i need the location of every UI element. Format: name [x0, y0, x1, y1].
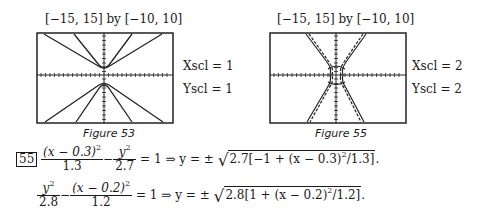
figure-55-xscl: Xscl = 2 [412, 59, 463, 73]
eq1-radicand: 2.7[−1 + (x − 0.3) [229, 152, 341, 166]
eq2-period: . [361, 188, 365, 202]
eq2-den1: 2.8 [37, 196, 60, 209]
figure-55-graph [269, 32, 407, 124]
eq2-sqrt: √2.8[1 + (x − 0.2)2/1.2] [214, 186, 362, 206]
eq1-minus: − [103, 152, 113, 166]
problem-number: 55 [16, 152, 37, 167]
eq2-fraction-2: (x − 0.2)2 1.2 [70, 182, 132, 208]
eq1-num1-exp: 2 [96, 143, 101, 152]
eq2-num1-exp: 2 [49, 179, 54, 188]
eq1-num2-exp: 2 [126, 143, 131, 152]
eq2-num2-exp: 2 [125, 179, 130, 188]
equation-line-2: y2 2.8 − (x − 0.2)2 1.2 = 1 ⇒ y = ± √2.8… [37, 182, 365, 208]
eq2-fraction-1: y2 2.8 [37, 182, 60, 208]
eq2-num2: (x − 0.2) [72, 181, 125, 195]
eq2-radicand: 2.8[1 + (x − 0.2) [225, 188, 327, 202]
eq2-implies: = 1 ⇒ y = ± [136, 188, 210, 202]
eq1-fraction-1: (x − 0.3)2 1.3 [41, 146, 103, 172]
eq1-den1: 1.3 [41, 160, 103, 173]
figure-53-xscl: Xscl = 1 [183, 59, 234, 73]
figure-53-yscl: Yscl = 1 [183, 82, 233, 96]
eq1-sqrt: √2.7[−1 + (x − 0.3)2/1.3] [218, 150, 376, 170]
figure-53-graph [36, 32, 174, 124]
eq1-radicand-end: /1.3] [347, 152, 375, 166]
eq2-minus: − [60, 188, 70, 202]
eq1-implies: = 1 ⇒ y = ± [140, 152, 214, 166]
eq1-num1: (x − 0.3) [43, 145, 96, 159]
figure-55-caption: Figure 55 [315, 127, 367, 140]
figure-53-caption: Figure 53 [83, 127, 135, 140]
eq1-fraction-2: y2 2.7 [113, 146, 136, 172]
eq1-num2: y [119, 145, 126, 159]
figure-53-window-label: [−15, 15] by [−10, 10] [45, 12, 182, 26]
eq1-period: . [375, 152, 379, 166]
eq1-den2: 2.7 [113, 160, 136, 173]
figure-55-window-label: [−15, 15] by [−10, 10] [277, 12, 414, 26]
equation-line-1: 55 (x − 0.3)2 1.3 − y2 2.7 = 1 ⇒ y = ± √… [16, 146, 379, 172]
eq2-radicand-end: /1.2] [332, 188, 360, 202]
eq2-den2: 1.2 [70, 196, 132, 209]
figure-55-yscl: Yscl = 2 [412, 82, 462, 96]
